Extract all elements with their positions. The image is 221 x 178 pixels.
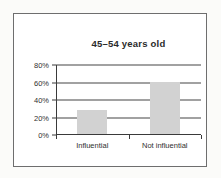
plot-area: 0%20%40%60%80%InfluentialNot influential	[56, 65, 201, 135]
bar-influential	[77, 110, 107, 135]
x-axis-tick	[129, 135, 130, 139]
x-category-label-influential: Influential	[76, 142, 108, 150]
x-axis-tick	[201, 135, 202, 139]
y-tick-label: 80%	[34, 62, 49, 69]
gridline	[56, 65, 201, 66]
y-tick-label: 60%	[34, 79, 49, 86]
y-tick-label: 0%	[38, 132, 49, 139]
chart-panel: 45–54 years old 0%20%40%60%80%Influentia…	[13, 13, 207, 167]
y-axis-tick	[52, 100, 56, 101]
y-axis-tick	[52, 82, 56, 83]
x-category-label-not-influential: Not influential	[142, 142, 187, 150]
y-axis-tick	[52, 65, 56, 66]
page-background: { "chart_data": { "type": "bar", "title"…	[0, 0, 221, 178]
y-tick-label: 20%	[34, 114, 49, 121]
bar-not-influential	[150, 82, 180, 135]
y-tick-label: 40%	[34, 97, 49, 104]
y-axis-tick	[52, 117, 56, 118]
chart-title: 45–54 years old	[56, 38, 201, 49]
x-axis-tick	[56, 135, 57, 139]
